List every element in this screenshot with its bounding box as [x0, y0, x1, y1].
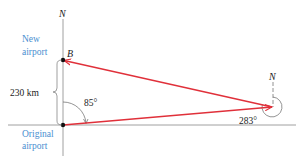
navigation-diagram: N N 283° 85° B 230 km New airport Origin… — [0, 0, 303, 164]
point-b-label: B — [67, 48, 73, 59]
original-airport-label-1: Original — [22, 129, 54, 139]
north-label-left: N — [58, 8, 67, 19]
angle-label-283: 283° — [239, 116, 257, 126]
north-label-right: N — [268, 71, 277, 82]
angle-arc-85 — [63, 102, 86, 123]
original-airport-label-2: airport — [22, 141, 48, 151]
new-airport-label-2: airport — [22, 47, 48, 57]
angle-label-85: 85° — [84, 98, 98, 108]
distance-brace — [53, 60, 62, 125]
new-airport-label-1: New — [22, 34, 40, 44]
distance-label: 230 km — [10, 88, 39, 98]
